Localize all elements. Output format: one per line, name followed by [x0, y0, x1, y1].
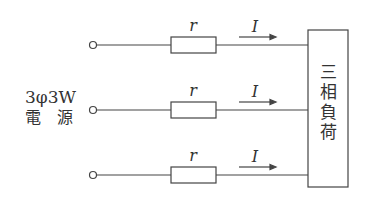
- source-label: 電 源: [25, 108, 73, 127]
- current-label-1: I: [251, 17, 259, 36]
- resistor-2: [171, 102, 216, 118]
- terminal-3: [90, 172, 97, 179]
- load-label-char-2: 相: [320, 82, 337, 102]
- load-label-char-4: 荷: [320, 122, 337, 142]
- resistor-label-2: r: [189, 81, 198, 100]
- resistor-label-1: r: [189, 16, 198, 35]
- current-label-2: I: [251, 82, 259, 101]
- circuit-diagram: r r r I I I 3φ3W 電 源 三 相 負 荷: [0, 0, 378, 199]
- phase-line-1: [90, 35, 309, 54]
- current-label-3: I: [251, 147, 259, 166]
- load-label-char-1: 三: [320, 62, 337, 82]
- phase-line-2: [90, 100, 309, 119]
- phase-line-3: [90, 165, 309, 184]
- terminal-1: [90, 42, 97, 49]
- resistor-3: [171, 167, 216, 183]
- load-label-char-3: 負: [320, 102, 337, 122]
- resistor-1: [171, 37, 216, 53]
- source-type-label: 3φ3W: [25, 87, 77, 107]
- resistor-label-3: r: [189, 146, 198, 165]
- terminal-2: [90, 107, 97, 114]
